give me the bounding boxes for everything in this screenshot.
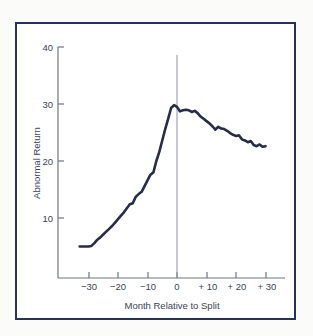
y-axis-title: Abnormal Return xyxy=(31,127,42,199)
x-tick-label-pos10: + 10 xyxy=(199,281,218,292)
x-tick-label-pos30: + 30 xyxy=(258,281,277,292)
x-tick-label-neg30: −30 xyxy=(81,281,97,292)
y-tick-label-20: 20 xyxy=(42,156,53,167)
y-tick-label-10: 10 xyxy=(42,213,53,224)
axes-group xyxy=(58,47,285,278)
x-tick-label-neg10: −10 xyxy=(140,281,156,292)
figure-root: 40 30 20 10 −30 −20 −10 0 + 10 + 20 + 30 xyxy=(0,0,313,336)
y-tick-labels: 40 30 20 10 xyxy=(42,42,53,224)
chart-canvas: 40 30 20 10 −30 −20 −10 0 + 10 + 20 + 30 xyxy=(0,0,313,336)
x-tick-label-pos20: + 20 xyxy=(228,281,247,292)
y-tick-label-40: 40 xyxy=(42,42,53,53)
x-tick-labels: −30 −20 −10 0 + 10 + 20 + 30 xyxy=(81,281,276,292)
y-tick-label-30: 30 xyxy=(42,99,53,110)
x-axis-title: Month Relative to Split xyxy=(124,300,219,311)
x-tick-label-neg20: −20 xyxy=(110,281,126,292)
y-tick-marks xyxy=(58,47,64,218)
abnormal-return-line xyxy=(80,105,266,246)
x-tick-label-0: 0 xyxy=(174,281,179,292)
